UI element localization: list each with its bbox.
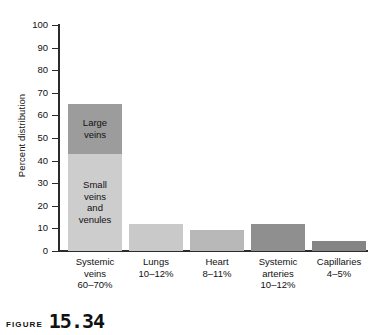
x-category-label: Capillaries 4–5% [304,256,374,279]
x-category-label: Heart 8–11% [182,256,252,279]
figure-caption: Figure 15.34 [6,308,104,332]
bar-segment [129,224,183,251]
y-tick-label: 70 [20,88,48,98]
bar-systemic-veins: Large veinsSmall veins and venules [68,104,122,251]
y-tick-label: 20 [20,201,48,211]
bar-segment [190,230,244,251]
bar-segment [251,224,305,251]
figure-caption-number: 15.34 [49,309,104,333]
y-tick-label: 30 [20,178,48,188]
y-tick-mark [52,115,59,116]
y-tick-mark [52,48,59,49]
bar-heart [190,230,244,251]
y-tick-mark [52,25,59,26]
y-tick-mark [52,228,59,229]
y-tick-label: 0 [20,246,48,256]
y-tick-mark [52,206,59,207]
bar-segment: Small veins and venules [68,154,122,251]
x-category-label: Lungs 10–12% [121,256,191,279]
y-tick-label: 100 [20,20,48,30]
y-tick-label: 80 [20,65,48,75]
bar-segment: Large veins [68,104,122,154]
y-tick-mark [52,70,59,71]
bar-segment-label: Large veins [68,117,122,140]
y-tick-mark [52,138,59,139]
x-category-label: Systemic arteries 10–12% [243,256,313,291]
y-tick-mark [52,251,59,252]
figure-root: Percent distribution 1009080706050403020… [0,0,374,335]
y-tick-label: 60 [20,110,48,120]
y-tick-mark [52,161,59,162]
y-tick-mark [52,183,59,184]
bar-capillaries [312,241,366,251]
chart-plot-area: Percent distribution 1009080706050403020… [0,0,374,265]
y-tick-mark [52,93,59,94]
figure-caption-word: Figure [6,317,43,329]
y-tick-label: 10 [20,223,48,233]
bar-systemic-arteries [251,224,305,251]
bar-segment-label: Small veins and venules [68,179,122,225]
bar-lungs [129,224,183,251]
y-tick-label: 40 [20,156,48,166]
y-tick-label: 90 [20,43,48,53]
x-category-label: Systemic veins 60–70% [60,256,130,291]
bar-segment [312,241,366,251]
y-tick-label: 50 [20,133,48,143]
